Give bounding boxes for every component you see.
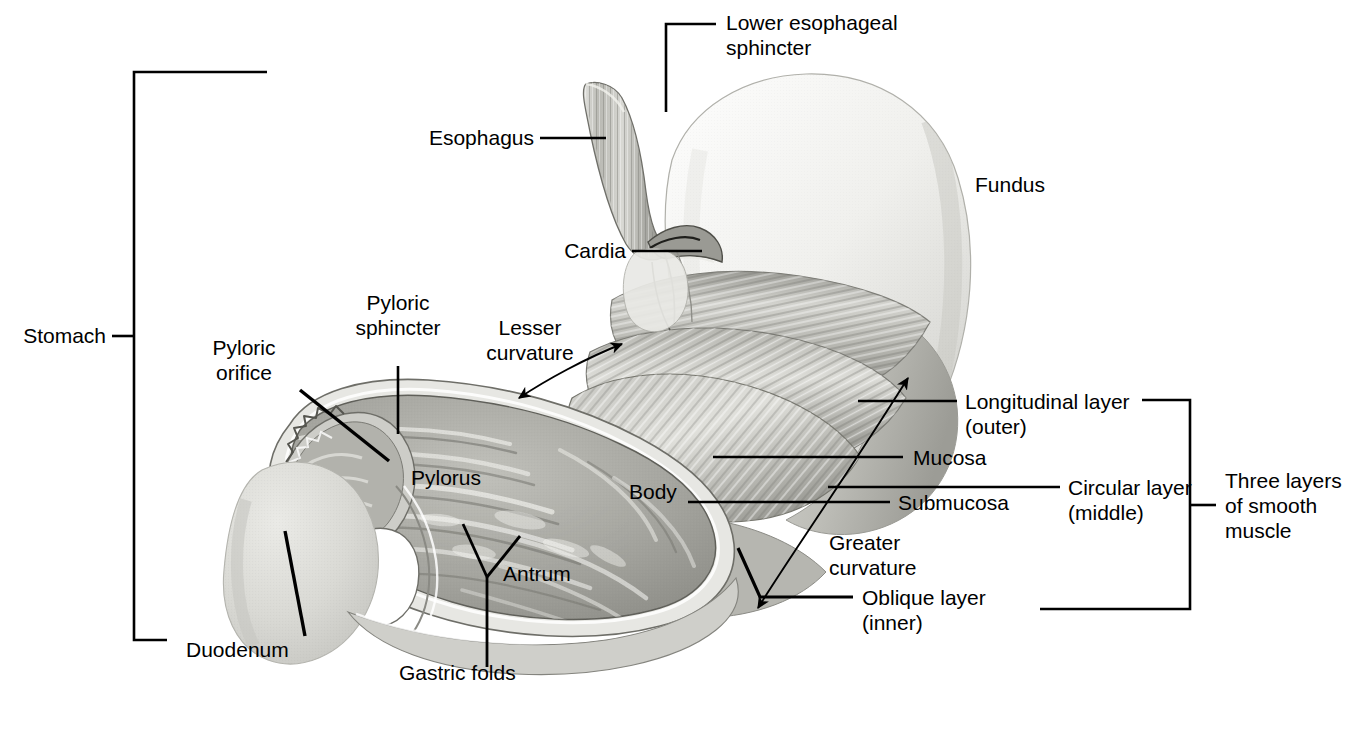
label-esophagus: Esophagus — [306, 125, 534, 150]
label-cardia: Cardia — [396, 238, 626, 263]
cardia-region — [623, 249, 688, 332]
label-longitudinal-layer: Longitudinal layer (outer) — [965, 389, 1130, 439]
label-pylorus: Pylorus — [411, 465, 481, 490]
label-gastric-folds: Gastric folds — [399, 660, 516, 685]
label-three-layers-of-smooth-muscle: Three layers of smooth muscle — [1225, 468, 1342, 543]
label-oblique-layer: Oblique layer (inner) — [862, 585, 986, 635]
stomach-anatomy-diagram: Lower esophageal sphincter Esophagus Car… — [0, 0, 1363, 729]
label-mucosa: Mucosa — [913, 445, 987, 470]
label-duodenum: Duodenum — [186, 637, 289, 662]
label-antrum: Antrum — [503, 561, 571, 586]
label-circular-layer: Circular layer (middle) — [1068, 475, 1192, 525]
label-pyloric-orifice: Pyloric orifice — [182, 335, 306, 385]
label-lesser-curvature: Lesser curvature — [466, 315, 594, 365]
label-stomach: Stomach — [0, 323, 106, 348]
label-lower-esophageal-sphincter: Lower esophageal sphincter — [726, 10, 898, 60]
label-pyloric-sphincter: Pyloric sphincter — [330, 290, 466, 340]
label-greater-curvature: Greater curvature — [829, 530, 917, 580]
label-submucosa: Submucosa — [898, 490, 1009, 515]
label-fundus: Fundus — [975, 172, 1045, 197]
label-body: Body — [629, 479, 677, 504]
